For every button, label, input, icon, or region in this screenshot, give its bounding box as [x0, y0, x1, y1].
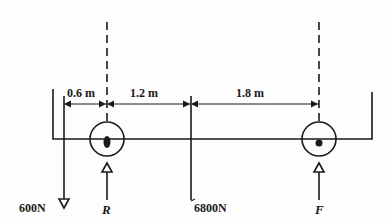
pin-R [104, 136, 111, 148]
beam-diagram: 0.6 m 1.2 m 1.8 m 600N R 6800N F [0, 0, 390, 224]
pin-F [316, 140, 323, 147]
force-600N-arrowhead [59, 199, 69, 208]
dim-label-0-6m: 0.6 m [67, 86, 95, 100]
dim-label-1-8m: 1.8 m [236, 86, 264, 100]
force-F-arrowhead [314, 163, 324, 172]
force-label-6800N: 6800N [194, 201, 227, 215]
beam-outline [53, 89, 372, 139]
force-R-arrowhead [102, 163, 112, 172]
force-label-600N: 600N [19, 201, 46, 215]
dim-label-1-2m: 1.2 m [130, 86, 158, 100]
force-label-F: F [314, 202, 324, 217]
force-label-R: R [101, 202, 111, 217]
diagram-canvas: 0.6 m 1.2 m 1.8 m 600N R 6800N F [0, 0, 390, 224]
